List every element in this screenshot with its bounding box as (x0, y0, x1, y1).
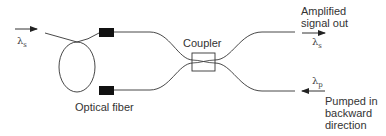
coupler-label: Coupler (183, 37, 222, 49)
fiber-entry (45, 33, 77, 42)
upper-arm (114, 32, 193, 60)
pump-label-line2: backward (325, 107, 372, 119)
pump-label-line1: Pumped in (325, 95, 378, 107)
output-arm (215, 32, 295, 60)
fiber-to-upper-splice (77, 33, 99, 42)
pump-label-line3: direction (325, 119, 367, 131)
output-signal-label: λs (312, 36, 322, 50)
input-signal-label: λs (17, 35, 27, 49)
splice-upper (99, 28, 114, 37)
fiber-amplifier-diagram: λs Optical fiber Coupler Amplified signa… (0, 0, 386, 136)
splice-lower (99, 86, 114, 95)
coupler-box (192, 53, 215, 71)
optical-fiber-label: Optical fiber (75, 101, 134, 113)
output-label-line2: signal out (301, 17, 348, 29)
lower-arm (114, 63, 193, 90)
fiber-loop (59, 42, 95, 92)
output-label-line1: Amplified (301, 5, 346, 17)
pump-arm (215, 63, 295, 91)
pump-signal-label: λp (312, 75, 323, 89)
